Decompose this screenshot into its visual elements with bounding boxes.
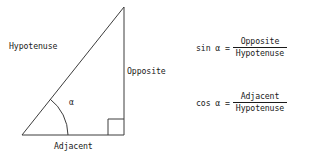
triangle-diagram [0,0,313,161]
sine-numerator: Opposite [238,37,283,47]
hypotenuse-side-line [22,7,124,135]
cosine-formula-lhs: cos α = [196,99,233,107]
angle-alpha-label: α [69,98,74,107]
right-angle-marker-icon [108,119,124,135]
opposite-label: Opposite [127,66,166,76]
sine-formula: sin α = Opposite Hypotenuse [196,37,287,59]
angle-arc-icon [50,99,68,135]
adjacent-label: Adjacent [54,141,93,151]
cosine-formula: cos α = Adjacent Hypotenuse [196,92,287,114]
sine-denominator: Hypotenuse [233,48,287,58]
cosine-numerator: Adjacent [238,92,283,102]
cosine-denominator: Hypotenuse [233,103,287,113]
cosine-fraction: Adjacent Hypotenuse [233,92,287,114]
trigonometry-figure: Hypotenuse Opposite Adjacent α sin α = O… [0,0,313,161]
hypotenuse-label: Hypotenuse [9,41,57,51]
sine-fraction: Opposite Hypotenuse [233,37,287,59]
sine-formula-lhs: sin α = [196,44,233,52]
